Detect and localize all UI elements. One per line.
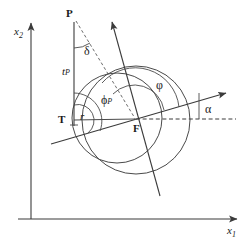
x2-axis-label: x2 xyxy=(14,26,23,40)
angle-phi-p-label: ϕP xyxy=(101,94,112,106)
angle-phi-label: φ xyxy=(156,79,163,91)
angle-alpha-label: α xyxy=(205,103,211,115)
length-tp-label: tP xyxy=(62,66,70,77)
geometry-figure: x2 x1 P T F δ ϕP φ α tP r xyxy=(0,0,251,247)
normal-direction-line xyxy=(112,22,160,196)
point-t-label: T xyxy=(58,114,65,125)
point-f-label: F xyxy=(133,123,140,134)
x1-axis-label: x1 xyxy=(227,225,236,239)
figure-canvas xyxy=(0,0,251,247)
angle-delta-label: δ xyxy=(84,45,90,57)
length-r-label: r xyxy=(80,111,84,122)
cartesian-axes xyxy=(18,23,237,219)
phi-angle-arc xyxy=(102,68,179,107)
point-p-label: P xyxy=(66,8,73,19)
small-circle xyxy=(72,73,162,163)
phi-p-angle-arc xyxy=(74,93,102,131)
